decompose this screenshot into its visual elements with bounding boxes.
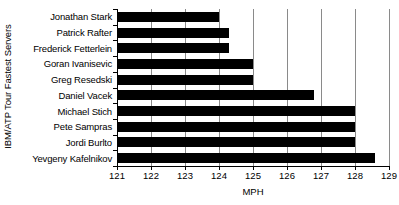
x-axis-title: MPH (117, 186, 389, 197)
category-label: Daniel Vacek (14, 88, 115, 104)
bar (117, 43, 229, 53)
x-tick-label: 124 (211, 170, 227, 181)
plot-area (117, 9, 389, 166)
category-label: Frederick Fetterlein (14, 40, 115, 56)
bar-row (117, 25, 389, 41)
category-label: Jonathan Stark (14, 9, 115, 25)
gridline (389, 9, 390, 166)
bar-row (117, 56, 389, 72)
bar (117, 75, 253, 85)
category-label: Pete Sampras (14, 119, 115, 135)
category-label: Michael Stich (14, 103, 115, 119)
category-label: Yevgeny Kafelnikov (14, 150, 115, 166)
bar-row (117, 119, 389, 135)
bar (117, 28, 229, 38)
x-tick-label: 129 (381, 170, 397, 181)
x-tick-label: 122 (143, 170, 159, 181)
bar-row (117, 103, 389, 119)
bar (117, 122, 355, 132)
category-label: Goran Ivanisevic (14, 56, 115, 72)
bar (117, 106, 355, 116)
category-label-list: Jonathan StarkPatrick RafterFrederick Fe… (14, 9, 115, 166)
x-tick-label: 128 (347, 170, 363, 181)
category-label: Patrick Rafter (14, 25, 115, 41)
x-tick-label: 126 (279, 170, 295, 181)
x-tick-label-list: 121122123124125126127128129 (117, 170, 389, 183)
bar (117, 153, 375, 163)
bar (117, 59, 253, 69)
y-axis-title-text: IBM/ATP Tour Fastest Servers (2, 24, 13, 148)
x-tick-label: 125 (245, 170, 261, 181)
bar (117, 12, 219, 22)
bar-row (117, 135, 389, 151)
category-label: Greg Resedski (14, 72, 115, 88)
bar-row (117, 87, 389, 103)
bar (117, 90, 314, 100)
bar-row (117, 72, 389, 88)
bar-row (117, 150, 389, 166)
bar-series (117, 9, 389, 166)
x-tick-label: 123 (177, 170, 193, 181)
bar (117, 137, 355, 147)
x-tick-label: 127 (313, 170, 329, 181)
y-axis-tick (113, 166, 117, 167)
category-label: Jordi Burlto (14, 135, 115, 151)
bar-row (117, 9, 389, 25)
y-axis-title: IBM/ATP Tour Fastest Servers (0, 0, 14, 172)
x-tick-label: 121 (109, 170, 125, 181)
bar-chart: IBM/ATP Tour Fastest Servers Jonathan St… (0, 0, 399, 205)
bar-row (117, 40, 389, 56)
